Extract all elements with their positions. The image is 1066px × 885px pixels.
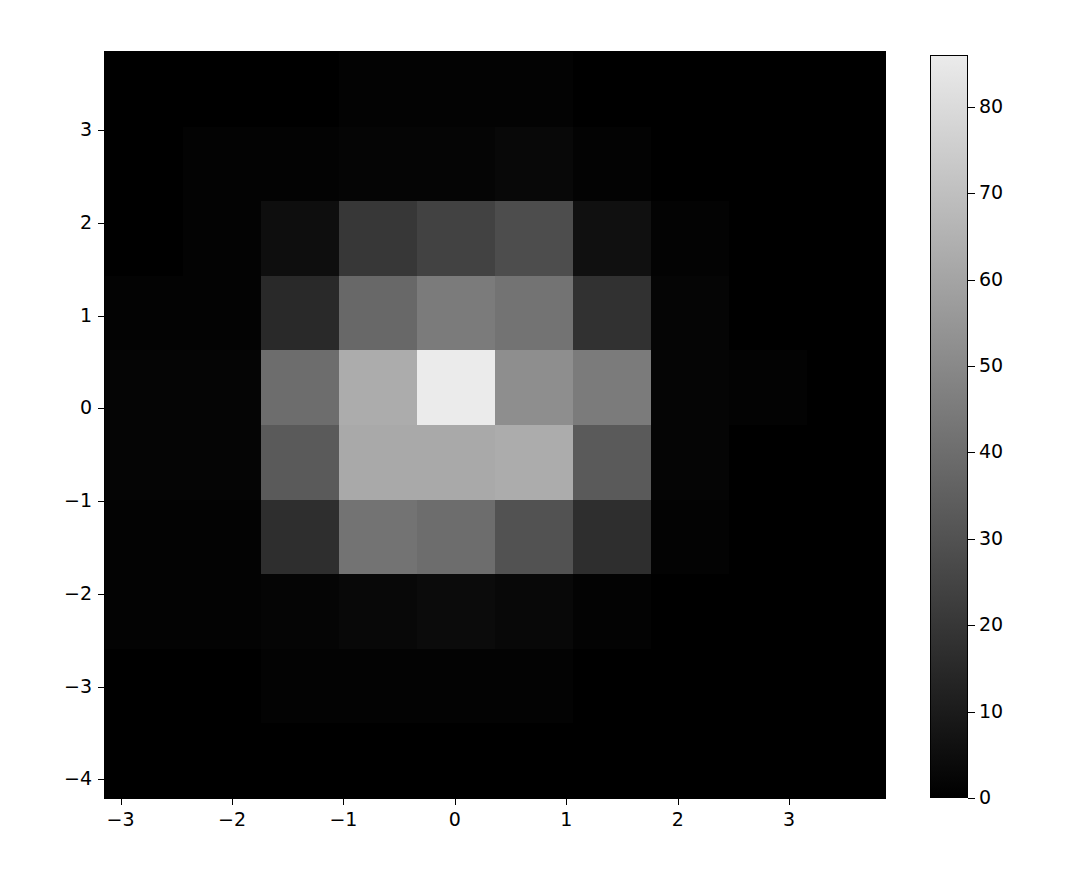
y-tick-mark <box>98 408 105 409</box>
heatmap-cell <box>495 127 574 203</box>
y-tick-mark <box>98 130 105 131</box>
heatmap-cell <box>651 574 730 650</box>
colorbar-tick-label: 20 <box>979 613 1003 635</box>
heatmap-cell <box>729 723 808 799</box>
heatmap-cell <box>183 127 262 203</box>
heatmap-cell <box>807 500 886 576</box>
heatmap-cell <box>105 649 184 725</box>
colorbar-tick-mark <box>968 625 975 626</box>
heatmap-cell <box>573 127 652 203</box>
heatmap-cell <box>261 723 340 799</box>
heatmap-cell <box>573 425 652 501</box>
heatmap-cell <box>417 350 496 426</box>
heatmap-cell <box>573 500 652 576</box>
heatmap-cell <box>495 574 574 650</box>
y-tick-label: 0 <box>30 396 92 418</box>
heatmap-cell <box>651 649 730 725</box>
colorbar <box>930 55 968 798</box>
colorbar-tick-mark <box>968 798 975 799</box>
heatmap-cell <box>417 500 496 576</box>
heatmap-cell <box>105 52 184 128</box>
colorbar-tick-label: 30 <box>979 527 1003 549</box>
heatmap-cell <box>417 723 496 799</box>
heatmap-cell <box>573 350 652 426</box>
x-tick-label: 1 <box>536 808 596 830</box>
heatmap-cell <box>729 425 808 501</box>
heatmap-cell <box>183 350 262 426</box>
heatmap-cell <box>183 649 262 725</box>
colorbar-tick-label: 60 <box>979 268 1003 290</box>
y-tick-label: 2 <box>30 211 92 233</box>
x-tick-mark <box>566 798 567 805</box>
heatmap-cell <box>651 52 730 128</box>
x-tick-mark <box>678 798 679 805</box>
heatmap-cell <box>495 500 574 576</box>
heatmap-cell <box>339 723 418 799</box>
heatmap-cell <box>261 574 340 650</box>
colorbar-tick-mark <box>968 107 975 108</box>
y-tick-mark <box>98 223 105 224</box>
x-tick-mark <box>121 798 122 805</box>
heatmap-cell <box>807 574 886 650</box>
x-tick-mark <box>789 798 790 805</box>
heatmap-cell <box>183 201 262 277</box>
colorbar-tick-mark <box>968 366 975 367</box>
heatmap-cell <box>339 425 418 501</box>
y-tick-label: 1 <box>30 304 92 326</box>
x-tick-label: −2 <box>202 808 262 830</box>
y-tick-label: 3 <box>30 118 92 140</box>
heatmap-cell <box>495 52 574 128</box>
heatmap-cell <box>807 723 886 799</box>
heatmap-cell <box>339 649 418 725</box>
x-tick-mark <box>343 798 344 805</box>
heatmap-cell <box>105 276 184 352</box>
heatmap-cell <box>183 574 262 650</box>
heatmap-cell <box>183 52 262 128</box>
heatmap-cell <box>105 350 184 426</box>
x-tick-mark <box>232 798 233 805</box>
y-tick-label: −3 <box>30 675 92 697</box>
heatmap-cell <box>807 276 886 352</box>
heatmap-cell <box>651 276 730 352</box>
heatmap-cell <box>495 201 574 277</box>
heatmap-cell <box>573 649 652 725</box>
heatmap-cell <box>339 201 418 277</box>
heatmap-cell <box>417 52 496 128</box>
heatmap-cell <box>261 500 340 576</box>
heatmap-cell <box>261 649 340 725</box>
y-tick-mark <box>98 316 105 317</box>
heatmap-cell <box>807 52 886 128</box>
heatmap-cell <box>105 500 184 576</box>
heatmap-cell <box>105 201 184 277</box>
heatmap-cell <box>183 500 262 576</box>
heatmap-cell <box>729 350 808 426</box>
x-tick-label: −1 <box>313 808 373 830</box>
heatmap-cell <box>339 574 418 650</box>
heatmap-cell <box>729 500 808 576</box>
heatmap-cell <box>339 276 418 352</box>
heatmap-cell <box>417 276 496 352</box>
y-tick-label: −4 <box>30 767 92 789</box>
colorbar-tick-mark <box>968 280 975 281</box>
heatmap-cell <box>261 425 340 501</box>
heatmap-cell <box>729 276 808 352</box>
heatmap-cell <box>183 276 262 352</box>
heatmap-cell <box>105 425 184 501</box>
heatmap-cell <box>495 276 574 352</box>
x-tick-label: 0 <box>425 808 485 830</box>
heatmap-cell <box>105 723 184 799</box>
colorbar-tick-mark <box>968 452 975 453</box>
heatmap-cell <box>651 500 730 576</box>
heatmap-cell <box>261 52 340 128</box>
heatmap-cell <box>495 723 574 799</box>
x-tick-label: 2 <box>648 808 708 830</box>
heatmap-cell <box>573 52 652 128</box>
heatmap-cell <box>729 649 808 725</box>
heatmap-cell <box>651 425 730 501</box>
colorbar-tick-mark <box>968 712 975 713</box>
heatmap-cell <box>807 350 886 426</box>
colorbar-tick-label: 10 <box>979 700 1003 722</box>
y-tick-label: −1 <box>30 489 92 511</box>
heatmap-cell <box>651 201 730 277</box>
heatmap-cell <box>261 201 340 277</box>
